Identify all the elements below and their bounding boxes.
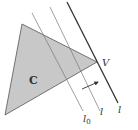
line-label-l-supporting: l bbox=[118, 104, 121, 115]
line-label-l0: l0 bbox=[83, 113, 91, 126]
line-label-l-middle: l bbox=[100, 106, 103, 117]
region-label-c: C bbox=[29, 74, 38, 87]
convex-region-diagram: C V l0 l l bbox=[0, 0, 138, 130]
vertex-label-v: V bbox=[102, 57, 111, 68]
direction-arrow-icon bbox=[82, 82, 98, 89]
line-label-l0-subscript: 0 bbox=[86, 118, 90, 126]
region-c bbox=[5, 24, 97, 115]
